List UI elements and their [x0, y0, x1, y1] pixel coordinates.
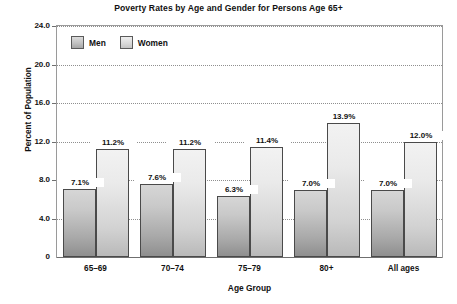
gridline: [57, 257, 442, 258]
data-label: 7.0%: [288, 179, 335, 188]
chart-container: Poverty Rates by Age and Gender for Pers…: [0, 0, 457, 304]
bar-women[interactable]: [404, 142, 437, 258]
data-label: 11.2%: [167, 138, 214, 147]
bar-women[interactable]: [96, 149, 129, 257]
women-swatch-icon: [120, 36, 133, 49]
x-tick-label: 65–69: [56, 264, 136, 273]
chart-legend: Men Women: [71, 36, 168, 49]
bar-women[interactable]: [250, 147, 283, 257]
bar-women[interactable]: [173, 149, 206, 257]
gridline: [57, 65, 442, 66]
data-label: 6.3%: [211, 185, 258, 194]
data-label: 12.0%: [398, 131, 445, 140]
y-axis-title: Percent of Population: [24, 30, 33, 190]
legend-label-women: Women: [138, 38, 168, 48]
bar-men[interactable]: [63, 189, 96, 257]
chart-title: Poverty Rates by Age and Gender for Pers…: [0, 3, 457, 13]
bar-men[interactable]: [140, 184, 173, 257]
x-tick-label: 75–79: [210, 264, 290, 273]
data-label: 11.4%: [244, 136, 291, 145]
y-tick-label: 4.0: [6, 214, 50, 223]
x-axis-title: Age Group: [56, 283, 443, 293]
data-label: 7.1%: [57, 178, 104, 187]
gridline: [57, 103, 442, 104]
x-tick-label: 70–74: [133, 264, 213, 273]
data-label: 7.0%: [365, 179, 412, 188]
gridline: [57, 26, 442, 27]
plot-area: 7.1%11.2%7.6%11.2%6.3%11.4%7.0%13.9%7.0%…: [56, 25, 443, 258]
bar-women[interactable]: [327, 123, 360, 257]
bar-men[interactable]: [371, 190, 404, 257]
data-label: 13.9%: [321, 112, 368, 121]
x-tick-label: All ages: [364, 264, 444, 273]
legend-item-men[interactable]: Men: [71, 36, 106, 49]
x-tick-label: 80+: [287, 264, 367, 273]
data-label: 11.2%: [90, 138, 137, 147]
y-tick-label: 0: [6, 252, 50, 261]
bar-men[interactable]: [217, 196, 250, 257]
legend-label-men: Men: [89, 38, 106, 48]
data-label: 7.6%: [134, 173, 181, 182]
plot-inner: 7.1%11.2%7.6%11.2%6.3%11.4%7.0%13.9%7.0%…: [57, 26, 442, 257]
men-swatch-icon: [71, 36, 84, 49]
bar-men[interactable]: [294, 190, 327, 257]
legend-item-women[interactable]: Women: [120, 36, 168, 49]
